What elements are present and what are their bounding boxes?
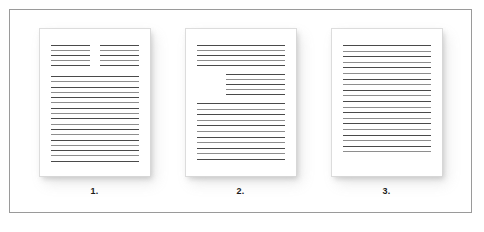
text-line [51,161,139,162]
text-line [343,140,431,141]
document-item-3[interactable]: 3. [332,29,442,196]
text-line [226,89,285,90]
text-line [51,140,139,141]
text-line [100,50,139,51]
text-line [343,79,431,80]
text-line [343,56,431,57]
text-line [226,79,285,80]
text-column-right-1 [100,45,139,66]
page-preview-1[interactable] [40,29,150,176]
text-line [343,112,431,113]
text-line [51,150,139,151]
indented-block-2 [226,74,285,95]
text-line [343,84,431,85]
text-line [51,50,90,51]
text-line [197,109,285,110]
page-caption-1: 1. [91,187,99,196]
text-line [51,134,139,135]
text-line [51,129,139,130]
two-column-block-1 [51,45,139,66]
text-line [51,118,139,119]
text-line [197,137,285,138]
text-line [51,124,139,125]
text-line [51,45,90,46]
text-line [197,114,285,115]
text-line [51,60,90,61]
text-line [51,92,139,93]
text-line [51,155,139,156]
text-line [226,94,285,95]
text-line [197,159,285,160]
page-preview-2[interactable] [186,29,296,176]
text-line [51,65,90,66]
block-spacer [197,66,285,74]
text-line [197,103,285,104]
text-line [343,146,431,147]
text-line [51,108,139,109]
text-line [100,60,139,61]
text-line [343,135,431,136]
text-line [100,55,139,56]
text-line [51,113,139,114]
page-caption-3: 3. [383,187,391,196]
text-line [197,142,285,143]
block-spacer [51,66,139,76]
text-line [51,102,139,103]
text-line [51,55,90,56]
text-line [343,90,431,91]
text-line [100,65,139,66]
body-block-2 [197,103,285,160]
text-line [197,60,285,61]
text-line [197,50,285,51]
block-spacer [197,95,285,103]
page-content-1 [51,45,139,162]
text-line [197,65,285,66]
text-line [343,51,431,52]
text-line [197,120,285,121]
text-line [226,74,285,75]
text-line [51,87,139,88]
text-line [343,123,431,124]
text-line [51,81,139,82]
text-line [343,67,431,68]
document-item-1[interactable]: 1. [40,29,150,196]
text-line [197,131,285,132]
figure-frame: 1. 2. 3. [9,9,472,213]
page-preview-3[interactable] [332,29,442,176]
text-column-left-1 [51,45,90,66]
page-content-3 [343,45,431,162]
header-block-2 [197,45,285,66]
text-line [343,73,431,74]
text-line [51,97,139,98]
text-line [343,129,431,130]
page-caption-2: 2. [237,187,245,196]
text-line [343,62,431,63]
text-line [51,76,139,77]
text-line [100,45,139,46]
text-line [343,45,431,46]
text-line [197,148,285,149]
text-line [226,84,285,85]
text-line [343,101,431,102]
text-line [197,125,285,126]
text-line [343,118,431,119]
text-line [343,107,431,108]
body-block-1 [51,76,139,162]
text-line [51,145,139,146]
page-content-2 [197,45,285,162]
body-block-3 [343,45,431,152]
document-item-2[interactable]: 2. [186,29,296,196]
text-line [343,95,431,96]
text-line [197,55,285,56]
text-line [343,151,431,152]
text-line [197,45,285,46]
documents-row: 1. 2. 3. [10,10,471,212]
text-line [197,153,285,154]
